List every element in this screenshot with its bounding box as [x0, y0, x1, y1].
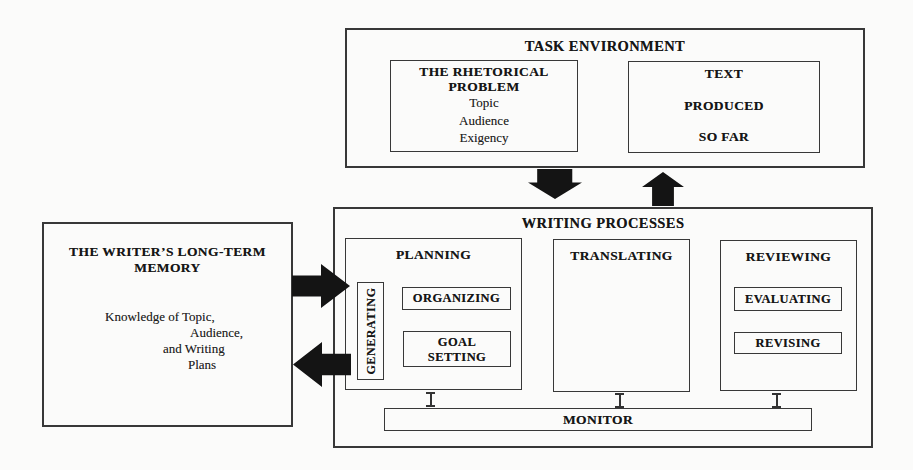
- rhetorical-problem-box: THE RHETORICAL PROBLEM Topic Audience Ex…: [390, 60, 578, 152]
- translating-box: TRANSLATING: [553, 239, 690, 392]
- ltm-body-line4: Plans: [188, 357, 216, 373]
- generating-box: GENERATING: [357, 282, 384, 380]
- rhetorical-problem-title-line1: THE RHETORICAL: [391, 64, 577, 79]
- monitor-connector-reviewing: [772, 393, 781, 408]
- arrow-down-icon: [528, 169, 582, 199]
- ltm-title-line2: MEMORY: [44, 260, 291, 276]
- ltm-body-line2: Audience,: [190, 325, 243, 341]
- monitor-connector-translating: [615, 393, 624, 408]
- rhetorical-problem-title-line2: PROBLEM: [391, 79, 577, 94]
- ltm-body-line3: and Writing: [163, 341, 225, 357]
- revising-box: REVISING: [734, 332, 842, 354]
- rhetorical-item-exigency: Exigency: [391, 129, 577, 147]
- text-produced-line2: PRODUCED: [629, 98, 819, 114]
- writing-processes-title: WRITING PROCESSES: [335, 215, 871, 232]
- arrow-up-icon: [642, 172, 684, 206]
- text-produced-line1: TEXT: [629, 66, 819, 82]
- translating-title: TRANSLATING: [554, 248, 689, 264]
- evaluating-box: EVALUATING: [734, 287, 842, 311]
- planning-box: PLANNING GENERATING ORGANIZING GOAL SETT…: [345, 238, 522, 390]
- monitor-connector-planning: [426, 392, 435, 407]
- goal-setting-box: GOAL SETTING: [403, 331, 511, 367]
- text-produced-box: TEXT PRODUCED SO FAR: [628, 61, 820, 153]
- generating-label: GENERATING: [363, 287, 378, 374]
- rhetorical-item-audience: Audience: [391, 112, 577, 130]
- reviewing-box: REVIEWING EVALUATING REVISING: [720, 240, 857, 391]
- organizing-label: ORGANIZING: [413, 291, 500, 306]
- diagram-canvas: TASK ENVIRONMENT THE RHETORICAL PROBLEM …: [0, 0, 913, 470]
- organizing-box: ORGANIZING: [402, 287, 511, 310]
- goal-setting-line1: GOAL: [404, 334, 510, 350]
- long-term-memory-box: THE WRITER’S LONG-TERM MEMORY Knowledge …: [42, 222, 293, 427]
- reviewing-title: REVIEWING: [721, 249, 856, 265]
- writing-processes-box: WRITING PROCESSES PLANNING GENERATING OR…: [333, 207, 873, 448]
- rhetorical-item-topic: Topic: [391, 94, 577, 112]
- goal-setting-line2: SETTING: [404, 350, 510, 364]
- evaluating-label: EVALUATING: [745, 292, 831, 307]
- task-environment-box: TASK ENVIRONMENT THE RHETORICAL PROBLEM …: [345, 28, 865, 168]
- text-produced-line3: SO FAR: [629, 129, 819, 145]
- task-environment-title: TASK ENVIRONMENT: [347, 38, 863, 55]
- ltm-body-line1: Knowledge of Topic,: [105, 309, 215, 325]
- planning-title: PLANNING: [346, 247, 521, 263]
- monitor-box: MONITOR: [384, 408, 812, 431]
- revising-label: REVISING: [755, 336, 820, 351]
- ltm-title-line1: THE WRITER’S LONG-TERM: [44, 244, 291, 260]
- monitor-label: MONITOR: [563, 412, 633, 428]
